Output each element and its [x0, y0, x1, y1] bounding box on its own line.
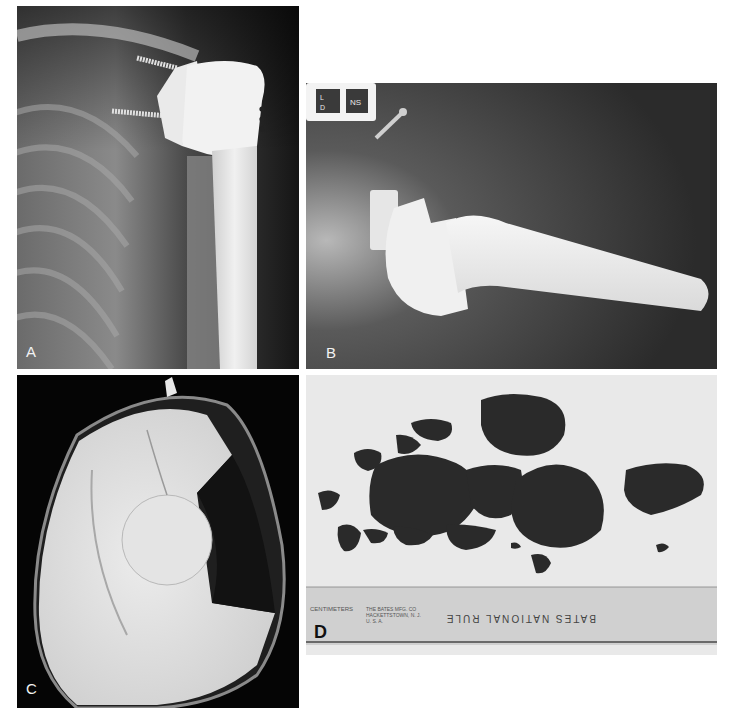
- marker-text-l: L: [320, 94, 324, 101]
- ruler-maker-3: U. S. A.: [366, 618, 383, 624]
- panel-d-photo: CENTIMETERS BATES NATIONAL RULE THE BATE…: [306, 375, 717, 655]
- marker-text-d: D: [320, 104, 325, 111]
- ruler-brand: BATES NATIONAL RULE: [445, 613, 596, 624]
- panel-label-d: D: [314, 625, 327, 640]
- debris-fragments: [318, 394, 704, 573]
- marker-text-ns: NS: [350, 98, 361, 107]
- panel-b-radiograph: L D NS B: [306, 83, 717, 369]
- panel-label-a: A: [26, 344, 36, 359]
- scale-ruler: CENTIMETERS BATES NATIONAL RULE THE BATE…: [306, 587, 717, 645]
- ruler-unit-label: CENTIMETERS: [310, 606, 353, 612]
- panel-a-radiograph: A: [17, 6, 299, 369]
- xray-ap-image: [17, 6, 299, 369]
- debris-specimen-image: CENTIMETERS BATES NATIONAL RULE THE BATE…: [306, 375, 717, 655]
- polyethylene-insert-image: [17, 375, 299, 708]
- panel-label-c: C: [26, 681, 37, 696]
- panel-c-photo: C: [17, 375, 299, 708]
- xray-axillary-image: L D NS: [306, 83, 717, 369]
- panel-label-b: B: [326, 345, 336, 360]
